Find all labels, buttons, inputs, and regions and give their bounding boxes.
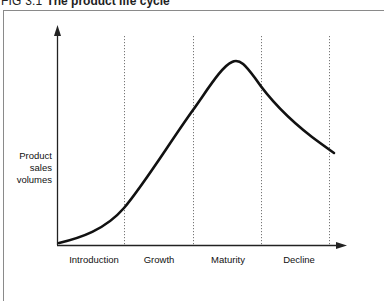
y-label-line: Product (17, 150, 52, 162)
phase-label-maturity: Maturity (211, 254, 245, 265)
y-label-line: volumes (17, 174, 52, 186)
sales-curve (59, 61, 334, 243)
y-label-line: sales (17, 162, 52, 174)
y-axis-arrow-icon (54, 25, 61, 36)
y-axis-label: Product sales volumes (17, 150, 52, 186)
phase-label-decline: Decline (283, 254, 315, 265)
phase-label-growth: Growth (144, 254, 175, 265)
x-axis-arrow-icon (336, 242, 347, 249)
phase-dividers (125, 36, 330, 245)
phase-label-introduction: Introduction (69, 254, 119, 265)
